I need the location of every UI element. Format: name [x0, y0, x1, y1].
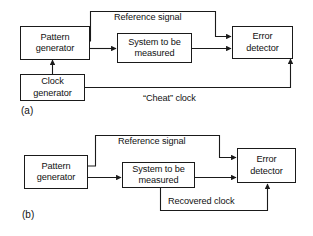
block-a-system-under-test-label: System to be measured	[124, 37, 184, 59]
label-b-recovered-clock: Recovered clock	[166, 196, 236, 206]
line-1: Error	[244, 31, 280, 42]
line-1: Clock	[31, 76, 73, 87]
block-b-system-under-test[interactable]: System to be measured	[122, 162, 195, 188]
block-a-system-under-test[interactable]: System to be measured	[117, 33, 192, 63]
label-a-cheat-clock: “Cheat” clock	[141, 93, 198, 103]
panel-label-b: (b)	[22, 209, 34, 220]
block-b-system-under-test-label: System to be measured	[128, 164, 188, 186]
block-a-pattern-generator-label: Pattern generator	[32, 32, 78, 54]
line-2: detector	[248, 166, 284, 177]
line-2: generator	[31, 88, 73, 99]
block-b-error-detector-label: Error detector	[246, 154, 286, 176]
panel-label-a: (a)	[21, 105, 33, 116]
line-1: Error	[248, 154, 284, 165]
line-1: Pattern	[34, 32, 76, 43]
block-b-pattern-generator-label: Pattern generator	[33, 161, 79, 183]
figure-canvas: Pattern generator System to be measured …	[0, 0, 313, 236]
label-b-reference-signal: Reference signal	[116, 136, 187, 146]
line-1: Pattern	[35, 161, 77, 172]
block-b-error-detector[interactable]: Error detector	[237, 148, 296, 183]
block-a-pattern-generator[interactable]: Pattern generator	[20, 26, 90, 60]
line-1: System to be	[130, 164, 186, 175]
block-a-clock-generator-label: Clock generator	[29, 76, 75, 98]
line-2: detector	[244, 43, 280, 54]
line-1: System to be	[126, 37, 182, 48]
edge-a-cheat-clock	[85, 59, 291, 88]
line-2: measured	[126, 48, 182, 59]
line-2: measured	[130, 175, 186, 186]
block-a-error-detector[interactable]: Error detector	[232, 26, 293, 59]
line-2: generator	[34, 43, 76, 54]
block-a-clock-generator[interactable]: Clock generator	[20, 74, 85, 101]
label-a-reference-signal: Reference signal	[112, 12, 183, 22]
line-2: generator	[35, 172, 77, 183]
block-b-pattern-generator[interactable]: Pattern generator	[24, 155, 88, 189]
block-a-error-detector-label: Error detector	[242, 31, 282, 53]
